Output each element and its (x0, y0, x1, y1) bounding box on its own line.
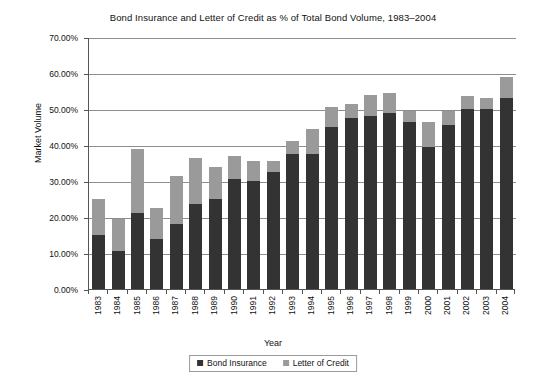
x-tick-label: 2003 (481, 296, 491, 315)
y-tick-label: 50.00% (49, 105, 78, 115)
bar-group (247, 161, 260, 289)
bar-segment-letter-of-credit (209, 167, 222, 199)
bar-segment-letter-of-credit (480, 98, 493, 109)
x-tick-mark (107, 290, 108, 294)
x-tick-label: 1987 (170, 296, 180, 315)
chart-legend: Bond InsuranceLetter of Credit (189, 355, 357, 372)
legend-swatch-icon (283, 360, 289, 366)
x-tick-mark (146, 290, 147, 294)
y-axis-title: Market Volume (33, 73, 43, 193)
bar-segment-letter-of-credit (442, 111, 455, 125)
bar-segment-letter-of-credit (267, 161, 280, 172)
x-tick-label: 1999 (403, 296, 413, 315)
x-tick-mark (263, 290, 264, 294)
bar-segment-bond-insurance (345, 118, 358, 289)
bar-group (150, 208, 163, 289)
bar-segment-letter-of-credit (383, 93, 396, 113)
x-tick-label: 1983 (93, 296, 103, 315)
plot-area (88, 38, 515, 290)
bar-segment-bond-insurance (461, 109, 474, 289)
bar-group (461, 96, 474, 289)
bar-group (228, 156, 241, 289)
x-tick-mark (418, 290, 419, 294)
x-tick-mark (243, 290, 244, 294)
x-tick-label: 1992 (267, 296, 277, 315)
bar-group (131, 149, 144, 289)
y-tick-label: 10.00% (49, 249, 78, 259)
bar-segment-letter-of-credit (286, 141, 299, 154)
x-tick-mark (282, 290, 283, 294)
x-tick-mark (224, 290, 225, 294)
bar-segment-bond-insurance (442, 125, 455, 289)
bar-segment-letter-of-credit (403, 111, 416, 122)
x-tick-label: 1994 (306, 296, 316, 315)
x-tick-mark (321, 290, 322, 294)
bar-segment-bond-insurance (247, 181, 260, 289)
bar-group (480, 98, 493, 289)
bar-segment-bond-insurance (286, 154, 299, 289)
x-tick-label: 2001 (442, 296, 452, 315)
bar-segment-bond-insurance (112, 251, 125, 289)
y-tick-label: 40.00% (49, 141, 78, 151)
bar-group (325, 107, 338, 289)
x-tick-label: 1993 (287, 296, 297, 315)
x-tick-mark (399, 290, 400, 294)
x-tick-mark (302, 290, 303, 294)
x-tick-mark (166, 290, 167, 294)
x-tick-mark (514, 290, 515, 294)
x-tick-label: 1990 (229, 296, 239, 315)
x-tick-label: 1989 (209, 296, 219, 315)
x-tick-label: 1996 (345, 296, 355, 315)
x-tick-mark (360, 290, 361, 294)
x-tick-mark (476, 290, 477, 294)
bar-group (422, 122, 435, 289)
x-tick-label: 2004 (500, 296, 510, 315)
y-tick-label: 20.00% (49, 213, 78, 223)
x-tick-label: 1998 (384, 296, 394, 315)
bar-segment-letter-of-credit (131, 149, 144, 214)
bar-group (189, 158, 202, 289)
legend-item[interactable]: Bond Insurance (197, 358, 267, 368)
x-tick-label: 1997 (364, 296, 374, 315)
legend-item[interactable]: Letter of Credit (283, 358, 349, 368)
gridline (89, 38, 516, 39)
bar-group (500, 77, 513, 289)
bar-segment-bond-insurance (403, 122, 416, 289)
bar-segment-bond-insurance (306, 154, 319, 289)
bar-group (364, 95, 377, 289)
bar-segment-bond-insurance (189, 204, 202, 289)
bar-segment-letter-of-credit (325, 107, 338, 127)
x-tick-label: 1985 (132, 296, 142, 315)
x-tick-label: 1995 (326, 296, 336, 315)
bar-segment-bond-insurance (364, 116, 377, 289)
bar-group (403, 111, 416, 289)
bar-segment-letter-of-credit (150, 208, 163, 239)
bar-chart: Bond Insurance and Letter of Credit as %… (0, 0, 546, 388)
bar-group (286, 141, 299, 289)
x-tick-mark (457, 290, 458, 294)
bar-segment-letter-of-credit (247, 161, 260, 181)
bar-group (442, 111, 455, 289)
bar-segment-bond-insurance (422, 147, 435, 289)
x-tick-label: 1984 (112, 296, 122, 315)
bar-segment-letter-of-credit (189, 158, 202, 205)
bar-segment-bond-insurance (480, 109, 493, 289)
bar-segment-bond-insurance (170, 224, 183, 289)
bar-segment-letter-of-credit (112, 219, 125, 251)
bar-segment-letter-of-credit (228, 156, 241, 179)
x-tick-mark (496, 290, 497, 294)
bar-segment-letter-of-credit (364, 95, 377, 117)
bar-segment-letter-of-credit (461, 96, 474, 109)
x-tick-mark (185, 290, 186, 294)
legend-label: Letter of Credit (293, 358, 349, 368)
legend-label: Bond Insurance (207, 358, 267, 368)
bar-segment-bond-insurance (383, 113, 396, 289)
bar-segment-bond-insurance (92, 235, 105, 289)
y-tick-label: 60.00% (49, 69, 78, 79)
bar-group (383, 93, 396, 289)
x-tick-label: 2000 (423, 296, 433, 315)
x-tick-label: 2002 (461, 296, 471, 315)
bar-group (209, 167, 222, 289)
bar-segment-bond-insurance (500, 98, 513, 289)
y-tick-label: 30.00% (49, 177, 78, 187)
